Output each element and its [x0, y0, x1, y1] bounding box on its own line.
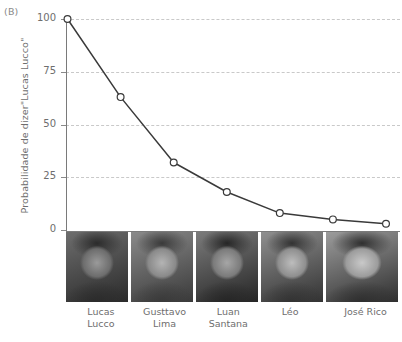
x-axis-label-1: LucasLucco: [70, 306, 132, 340]
gridline-100: [66, 19, 400, 20]
y-tick-label-0: 0: [22, 224, 56, 234]
photo-gusttavo-lima: [131, 232, 193, 302]
photo-jose-rico: [326, 232, 398, 302]
data-point-4: [223, 189, 230, 196]
data-point-5: [276, 210, 283, 217]
y-tick-label-25: 25: [22, 171, 56, 181]
gridline-25: [66, 177, 400, 178]
y-tick-label-75: 75: [22, 66, 56, 76]
data-point-2: [117, 94, 124, 101]
x-label-line2: Lucco: [70, 318, 132, 330]
photo-strip: [66, 232, 400, 302]
portrait-image: [196, 232, 258, 302]
portrait-image: [66, 232, 128, 302]
data-point-3: [170, 159, 177, 166]
y-axis-line: [66, 19, 67, 231]
portrait-image: [131, 232, 193, 302]
x-label-line1: Lucas: [70, 306, 132, 318]
x-label-line1: Luan: [197, 306, 259, 318]
x-label-line2: Lima: [134, 318, 196, 330]
x-label-line1: José Rico: [329, 306, 402, 318]
x-axis-label-5: José Rico: [329, 306, 402, 340]
photo-lucas-lucco: [66, 232, 128, 302]
photo-leo: [261, 232, 323, 302]
data-point-6: [330, 216, 337, 223]
y-tick-label-50: 50: [22, 119, 56, 129]
x-label-line1: Léo: [261, 306, 319, 318]
gridline-50: [66, 125, 400, 126]
x-axis-label-4: Léo: [261, 306, 319, 340]
x-label-line1: Gusttavo: [134, 306, 196, 318]
gridline-75: [66, 72, 400, 73]
x-axis-labels: LucasLuccoGusttavoLimaLuanSantanaLéoJosé…: [56, 306, 402, 340]
portrait-image: [261, 232, 323, 302]
portrait-image: [326, 232, 398, 302]
x-axis-label-2: GusttavoLima: [134, 306, 196, 340]
photo-luan-santana: [196, 232, 258, 302]
x-axis-label-3: LuanSantana: [197, 306, 259, 340]
x-label-line2: Santana: [197, 318, 259, 330]
y-tick-label-100: 100: [22, 13, 56, 23]
data-point-7: [383, 220, 390, 227]
chart-figure: (B) Probabilidade de dizer"Lucas Lucco" …: [0, 0, 402, 342]
